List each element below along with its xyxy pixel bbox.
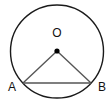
label-a: A bbox=[8, 80, 16, 94]
radius-ob bbox=[57, 51, 91, 83]
center-point bbox=[54, 48, 59, 53]
label-o: O bbox=[52, 26, 61, 40]
label-b: B bbox=[98, 80, 106, 94]
geometry-diagram: O A B bbox=[0, 0, 109, 105]
radius-oa bbox=[23, 51, 57, 83]
